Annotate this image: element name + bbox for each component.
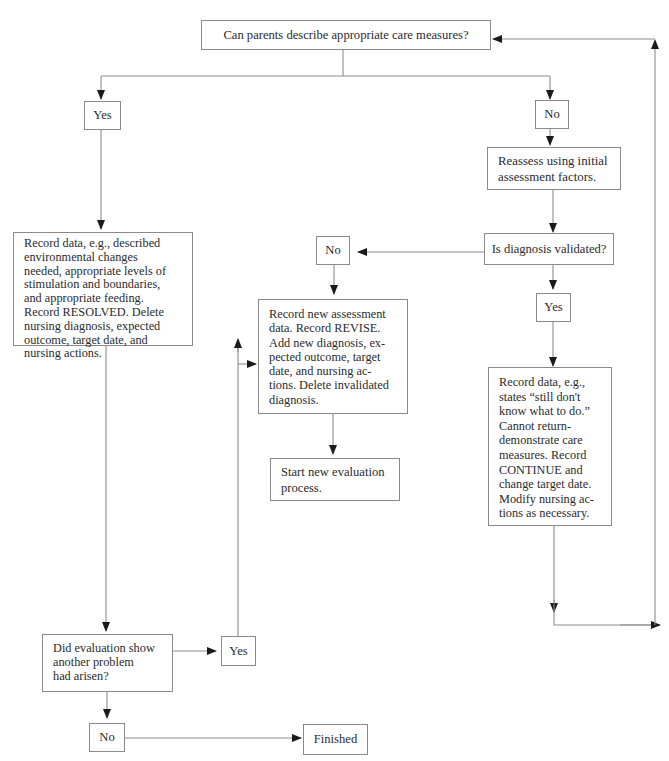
node-start-new-evaluation: Start new evaluation process. [270, 458, 400, 501]
node-reassess: Reassess using initial assessment factor… [487, 147, 621, 190]
node-record-continue: Record data, e.g., states “still don't k… [488, 367, 612, 526]
node-yes-top: Yes [84, 101, 121, 130]
node-yes-problem: Yes [221, 636, 256, 666]
node-record-resolved: Record data, e.g., described environment… [13, 232, 193, 346]
node-did-evaluation-show-problem: Did evaluation show another problem had … [42, 634, 173, 692]
node-no-top: No [535, 100, 569, 129]
node-diagnosis-validated: Is diagnosis validated? [484, 233, 614, 265]
flowchart-canvas: Can parents describe appropriate care me… [0, 0, 669, 761]
node-can-parents-describe-care: Can parents describe appropriate care me… [201, 20, 491, 50]
node-yes-diagnosis: Yes [536, 293, 571, 322]
node-no-diagnosis: No [316, 236, 350, 265]
node-no-problem: No [89, 723, 125, 752]
node-finished: Finished [303, 724, 368, 755]
node-record-revise: Record new assessment data. Record REVIS… [258, 299, 408, 414]
